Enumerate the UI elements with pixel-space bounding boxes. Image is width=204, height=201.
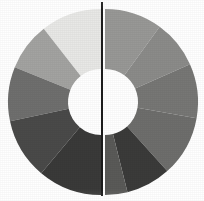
donut-chart-figure <box>0 0 204 201</box>
vertical-divider-line <box>101 2 103 196</box>
right-half-ring <box>105 9 198 195</box>
left-half-ring <box>8 9 101 195</box>
